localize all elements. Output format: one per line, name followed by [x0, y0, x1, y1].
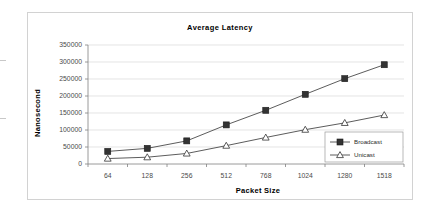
legend-label: Broadcast	[354, 138, 382, 145]
x-tick-marks	[88, 164, 404, 167]
data-point-marker	[381, 112, 388, 118]
legend-item-broadcast[interactable]: Broadcast	[330, 138, 382, 145]
y-tick-label: 150000	[59, 109, 82, 116]
left-edge-mark-upper	[0, 60, 6, 61]
y-tick-label: 350000	[59, 41, 82, 48]
legend-marker-square-icon	[337, 139, 343, 145]
y-axis-title: Nanosecond	[33, 89, 42, 137]
x-category-label: 1024	[298, 172, 313, 179]
average-latency-line-chart: Average Latency Nanosecond Packet Size 0…	[28, 13, 412, 199]
data-point-marker	[223, 122, 229, 128]
left-edge-mark-lower	[0, 118, 6, 119]
y-tick-label: 0	[78, 160, 82, 167]
y-tick-marks	[85, 45, 88, 164]
data-point-marker	[263, 107, 269, 113]
y-tick-label: 200000	[59, 92, 82, 99]
chart-legend[interactable]: BroadcastUnicast	[325, 132, 403, 162]
x-category-label: 1518	[377, 172, 392, 179]
x-axis-title: Packet Size	[236, 186, 281, 195]
x-category-label: 512	[221, 172, 233, 179]
y-tick-label: 100000	[59, 126, 82, 133]
y-tick-label: 250000	[59, 75, 82, 82]
x-category-label: 128	[142, 172, 154, 179]
data-point-marker	[144, 145, 150, 151]
data-point-marker	[381, 62, 387, 68]
y-tick-label: 300000	[59, 58, 82, 65]
x-axis-category-labels: 64128256512768102412801518	[104, 172, 392, 179]
chart-frame: Average Latency Nanosecond Packet Size 0…	[27, 12, 413, 200]
x-category-label: 64	[104, 172, 112, 179]
x-category-label: 1280	[337, 172, 352, 179]
x-category-label: 256	[181, 172, 193, 179]
chart-title: Average Latency	[187, 23, 253, 32]
data-point-marker	[342, 76, 348, 82]
y-axis-tick-labels: 0500001000001500002000002500003000003500…	[59, 41, 82, 167]
data-point-marker	[184, 138, 190, 144]
legend-label: Unicast	[354, 151, 375, 158]
data-point-marker	[302, 91, 308, 97]
x-category-label: 768	[260, 172, 272, 179]
y-tick-label: 50000	[63, 143, 82, 150]
data-point-marker	[105, 148, 111, 154]
